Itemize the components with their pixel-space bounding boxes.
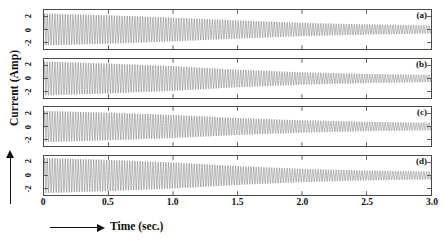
x-tick-label: 0: [23, 197, 63, 207]
y-axis-title-group: Current (Amp): [0, 18, 22, 196]
y-tick-label: -2: [23, 180, 33, 198]
panel-label-b: (b): [416, 59, 427, 69]
x-axis-tick-labels: 00.51.01.52.02.53.0: [0, 197, 447, 211]
waveform-trace-a: [44, 10, 431, 49]
x-tick-label: 0.5: [88, 197, 128, 207]
waveform-trace-c: [44, 107, 431, 146]
x-tick-label: 3.0: [412, 197, 447, 207]
plot-panel-a: (a): [43, 9, 432, 50]
x-tick-label: 1.5: [218, 197, 258, 207]
waveform-trace-d: [44, 156, 431, 195]
figure-container: Current (Amp) (a)(b)(c)(d) 00.51.01.52.0…: [0, 0, 447, 246]
y-tick-label: -2: [23, 131, 33, 149]
plot-panel-d: (d): [43, 155, 432, 196]
x-axis-title: Time (sec.): [110, 220, 163, 232]
plot-panel-b: (b): [43, 58, 432, 99]
plot-panel-c: (c): [43, 106, 432, 147]
panel-label-d: (d): [416, 156, 427, 166]
x-axis-title-group: Time (sec.): [40, 217, 280, 239]
panel-label-c: (c): [417, 107, 427, 117]
waveform-trace-b: [44, 59, 431, 98]
right-arrow-icon: [50, 227, 98, 228]
panel-label-a: (a): [417, 10, 428, 20]
x-tick-label: 1.0: [153, 197, 193, 207]
x-tick-label: 2.5: [347, 197, 387, 207]
y-tick-label: -2: [23, 83, 33, 101]
y-tick-label: -2: [23, 34, 33, 52]
x-tick-label: 2.0: [282, 197, 322, 207]
y-axis-title: Current (Amp): [8, 28, 20, 148]
